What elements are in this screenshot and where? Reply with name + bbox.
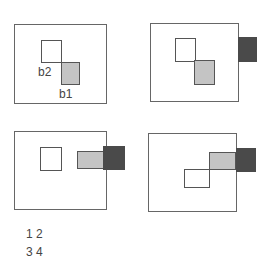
panel-1-box-b1: [61, 62, 80, 85]
panel-4-box-b1: [209, 152, 236, 170]
panel-2-box-b1: [194, 60, 215, 85]
panel-4-box-b2: [184, 169, 210, 188]
panel-1-label-b1: b1: [59, 88, 72, 100]
panel-1-box-b2: [41, 40, 62, 63]
panel-2-dark-box: [238, 37, 257, 62]
panel-4-dark-box: [236, 148, 256, 172]
panel-3-box-b2: [40, 147, 62, 171]
legend-row-2: 3 4: [26, 245, 43, 259]
panel-3-dark-box: [103, 146, 125, 170]
panel-3-box-b1: [77, 151, 104, 169]
legend-row-1: 1 2: [26, 227, 43, 241]
panel-2-box-b2: [175, 38, 196, 62]
panel-1-label-b2: b2: [38, 66, 51, 78]
